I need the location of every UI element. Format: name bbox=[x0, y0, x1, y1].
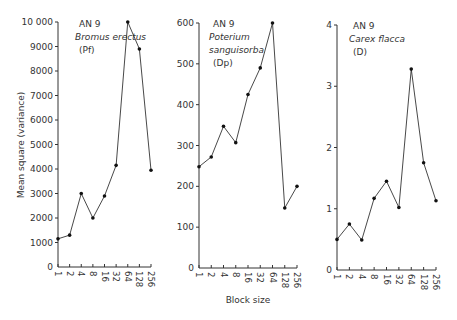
x-tick-label: 8 bbox=[231, 272, 241, 277]
y-tick-label: 3000 bbox=[30, 189, 53, 199]
y-tick-label: 0 bbox=[47, 262, 53, 272]
y-tick-label: 7000 bbox=[30, 91, 53, 101]
y-tick-label: 5000 bbox=[30, 140, 53, 150]
annotation-line: AN 9 bbox=[353, 21, 375, 31]
data-point bbox=[68, 233, 72, 237]
y-tick-label: 100 bbox=[177, 222, 194, 232]
y-tick-label: 200 bbox=[177, 181, 194, 191]
data-point bbox=[335, 238, 339, 242]
x-tick-label: 128 bbox=[280, 272, 290, 288]
y-tick-label: 0 bbox=[326, 265, 332, 275]
x-tick-label: 64 bbox=[406, 274, 416, 285]
data-point bbox=[56, 237, 60, 241]
x-tick-label: 2 bbox=[206, 272, 216, 277]
y-tick-label: 500 bbox=[177, 59, 194, 69]
annotation-line: (Dp) bbox=[213, 58, 233, 68]
data-point bbox=[258, 66, 262, 70]
data-point bbox=[114, 164, 118, 168]
x-tick-label: 1 bbox=[53, 271, 63, 276]
x-tick-label: 32 bbox=[255, 272, 265, 283]
data-point bbox=[222, 125, 226, 129]
data-point bbox=[372, 197, 376, 201]
data-point bbox=[126, 20, 130, 24]
y-tick-label: 1000 bbox=[30, 238, 53, 248]
x-tick-label: 8 bbox=[369, 274, 379, 279]
data-point bbox=[209, 155, 213, 159]
annotation-line: Poterium bbox=[209, 32, 250, 42]
x-tick-label: 2 bbox=[344, 274, 354, 279]
series-line bbox=[58, 22, 151, 239]
y-axis-label: Mean square (variance) bbox=[16, 92, 26, 199]
x-tick-label: 1 bbox=[332, 274, 342, 279]
annotation-line: AN 9 bbox=[79, 19, 101, 29]
y-tick-label: 400 bbox=[177, 100, 194, 110]
x-tick-label: 32 bbox=[394, 274, 404, 285]
data-point bbox=[295, 185, 299, 189]
annotation-line: (D) bbox=[353, 47, 367, 57]
data-point bbox=[385, 179, 389, 183]
data-point bbox=[360, 238, 364, 242]
panel-1: 010002000300040005000600070008000900010 … bbox=[22, 17, 157, 287]
data-point bbox=[348, 222, 352, 226]
y-tick-label: 0 bbox=[188, 263, 194, 273]
y-tick-label: 9000 bbox=[30, 42, 53, 52]
data-point bbox=[409, 67, 413, 71]
y-tick-label: 2000 bbox=[30, 213, 53, 223]
x-tick-label: 1 bbox=[194, 272, 204, 277]
y-tick-label: 4 bbox=[326, 20, 332, 30]
y-tick-label: 600 bbox=[177, 18, 194, 28]
x-tick-label: 64 bbox=[268, 272, 278, 283]
data-point bbox=[79, 192, 83, 196]
data-point bbox=[283, 206, 287, 210]
data-point bbox=[422, 161, 426, 165]
x-tick-label: 2 bbox=[65, 271, 75, 276]
y-tick-label: 3 bbox=[326, 81, 332, 91]
y-tick-label: 10 000 bbox=[22, 17, 54, 27]
data-point bbox=[271, 21, 275, 25]
x-tick-label: 8 bbox=[88, 271, 98, 276]
x-axis-label: Block size bbox=[226, 295, 271, 305]
data-point bbox=[138, 47, 142, 51]
x-tick-label: 4 bbox=[357, 274, 367, 279]
y-tick-label: 6000 bbox=[30, 115, 53, 125]
x-tick-label: 32 bbox=[111, 271, 121, 282]
panel-3: 012341248163264128256AN 9Carex flacca(D) bbox=[326, 20, 441, 290]
x-tick-label: 128 bbox=[134, 271, 144, 287]
data-point bbox=[434, 199, 438, 203]
x-tick-label: 64 bbox=[123, 271, 133, 282]
y-tick-label: 300 bbox=[177, 141, 194, 151]
x-tick-label: 16 bbox=[100, 271, 110, 282]
x-tick-label: 16 bbox=[243, 272, 253, 283]
data-point bbox=[91, 216, 95, 220]
x-tick-label: 4 bbox=[76, 271, 86, 276]
annotation-line: sanguisorba bbox=[209, 45, 264, 55]
x-tick-label: 256 bbox=[292, 272, 302, 288]
data-point bbox=[246, 93, 250, 97]
annotation-line: (Pf) bbox=[79, 45, 95, 55]
x-tick-label: 16 bbox=[382, 274, 392, 285]
x-tick-label: 256 bbox=[431, 274, 441, 290]
series-line bbox=[337, 69, 436, 240]
panel-2: 01002003004005006001248163264128256AN 9P… bbox=[177, 18, 302, 288]
y-tick-label: 8000 bbox=[30, 66, 53, 76]
data-point bbox=[197, 165, 201, 169]
x-tick-label: 256 bbox=[146, 271, 156, 287]
data-point bbox=[103, 194, 107, 198]
y-tick-label: 2 bbox=[326, 143, 332, 153]
data-point bbox=[234, 141, 238, 145]
x-tick-label: 4 bbox=[219, 272, 229, 277]
chart: Mean square (variance) Block size 010002… bbox=[0, 0, 457, 320]
annotation-line: Bromus erectus bbox=[75, 32, 146, 42]
y-tick-label: 1 bbox=[326, 204, 332, 214]
data-point bbox=[397, 206, 401, 210]
y-tick-label: 4000 bbox=[30, 164, 53, 174]
data-point bbox=[149, 168, 153, 172]
annotation-line: AN 9 bbox=[213, 19, 235, 29]
annotation-line: Carex flacca bbox=[349, 34, 405, 44]
x-tick-label: 128 bbox=[419, 274, 429, 290]
